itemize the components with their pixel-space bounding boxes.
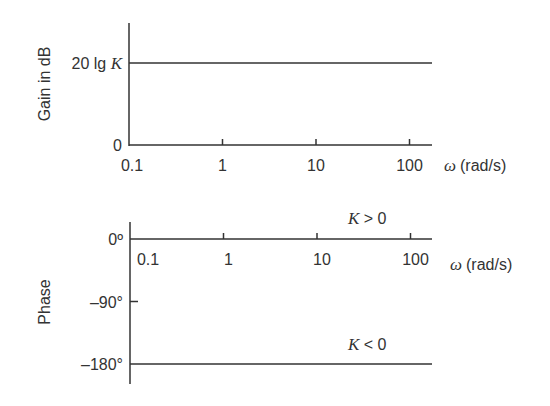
omega-symbol-phase: ω: [450, 255, 462, 274]
phase-plot: Phase 0.1110100 0º–90°–180° K > 0 K < 0 …: [36, 209, 512, 384]
gain-x-axis-label: ω(rad/s): [444, 156, 506, 175]
gain-y-tick-prefix: 20 lg: [72, 55, 111, 72]
gain-plot: Gain in dB 0.1110100 0 20 lg K ω(rad/s): [36, 23, 506, 175]
phase-x-tick-label: 0.1: [137, 251, 159, 268]
gain-y-axis-label: Gain in dB: [36, 47, 53, 122]
phase-label-k-pos: K > 0: [347, 209, 387, 228]
k-pos-rest: > 0: [359, 210, 386, 227]
phase-y-tick-label: –90°: [90, 294, 123, 311]
k-neg-rest: < 0: [359, 336, 386, 353]
gain-y-tick-label-0: 0: [113, 137, 122, 154]
phase-x-tick-label: 1: [224, 251, 233, 268]
phase-x-unit: (rad/s): [466, 256, 512, 273]
gain-y-tick-var: K: [110, 54, 124, 73]
bode-chart: Gain in dB 0.1110100 0 20 lg K ω(rad/s) …: [0, 0, 550, 406]
phase-x-tick-label: 100: [402, 251, 429, 268]
gain-x-tick-label: 0.1: [121, 157, 143, 174]
phase-x-axis-label: ω(rad/s): [450, 255, 512, 274]
gain-x-tick-label: 10: [307, 157, 325, 174]
phase-y-tick-label: 0º: [108, 231, 123, 248]
gain-y-tick-label-k: 20 lg K: [72, 54, 124, 73]
phase-x-tick-label: 10: [313, 251, 331, 268]
phase-y-axis-label: Phase: [36, 279, 53, 324]
gain-x-tick-label: 1: [218, 157, 227, 174]
phase-y-tick-label: –180°: [81, 356, 123, 373]
omega-symbol: ω: [444, 156, 456, 175]
gain-x-unit: (rad/s): [460, 157, 506, 174]
gain-x-tick-label: 100: [396, 157, 423, 174]
phase-label-k-neg: K < 0: [347, 335, 387, 354]
